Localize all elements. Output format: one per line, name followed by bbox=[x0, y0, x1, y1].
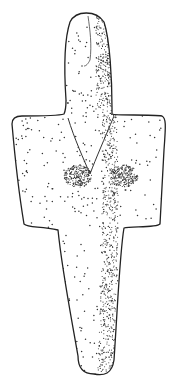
figurine-illustration: Stippled drawing of a cruciform figurine bbox=[0, 0, 175, 384]
figure-outline bbox=[12, 13, 165, 375]
stipple-shading bbox=[7, 8, 167, 379]
figurine-drawing bbox=[0, 0, 175, 384]
head-ridge-line bbox=[84, 16, 91, 66]
neck-v-line bbox=[68, 116, 114, 174]
